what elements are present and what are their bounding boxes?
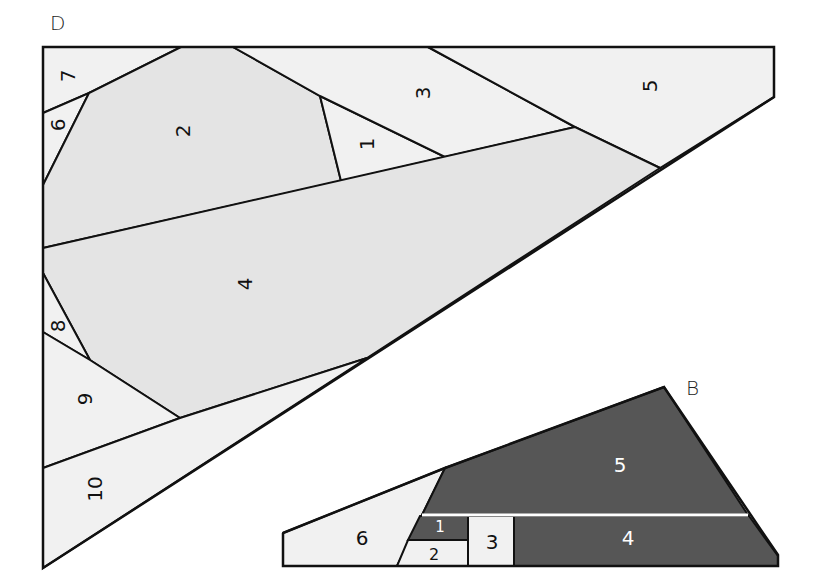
piece-b3-label: 3	[486, 530, 499, 554]
section-b-label: B	[686, 376, 699, 400]
piece-d8-label: 8	[46, 320, 70, 333]
piece-b5	[422, 387, 748, 515]
pattern-diagram: D 7 6 2 1 3 5 4 8 9 10 B	[0, 0, 818, 572]
piece-d3-label: 3	[411, 87, 435, 100]
piece-d2-label: 2	[171, 125, 195, 138]
piece-d5-label: 5	[638, 80, 662, 93]
piece-d9-label: 9	[73, 393, 97, 406]
section-d-label: D	[50, 11, 65, 35]
piece-d1-label: 1	[355, 138, 379, 151]
piece-d7-label: 7	[56, 70, 80, 83]
piece-b5-label: 5	[614, 453, 627, 477]
piece-d6-label: 6	[46, 119, 70, 132]
piece-b1-label: 1	[435, 518, 445, 536]
piece-d4-label: 4	[233, 278, 257, 291]
section-b: B 6 5 1 2 3 4	[283, 376, 778, 566]
piece-b2-label: 2	[429, 545, 439, 564]
piece-b6-label: 6	[356, 526, 369, 550]
piece-b4-label: 4	[622, 526, 635, 550]
piece-b4	[514, 516, 778, 566]
piece-d10-label: 10	[83, 476, 107, 501]
